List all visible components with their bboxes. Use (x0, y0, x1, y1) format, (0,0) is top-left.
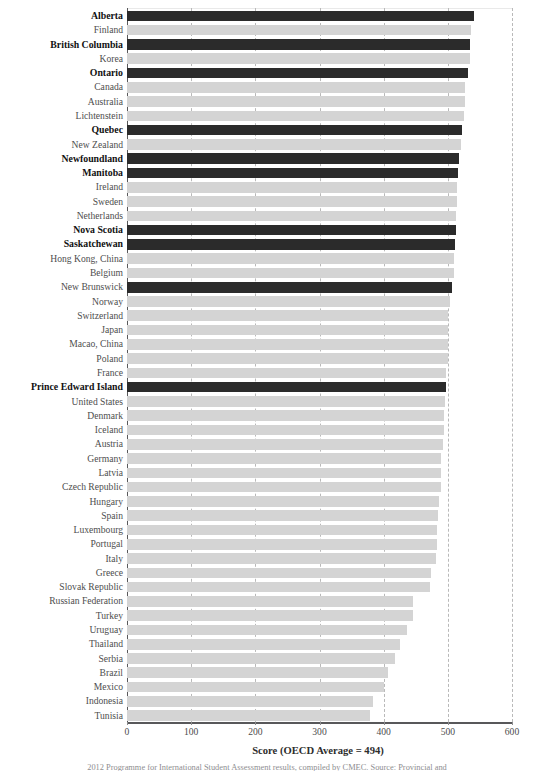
x-tick-mark (127, 722, 128, 725)
bar[interactable] (127, 353, 448, 364)
bar[interactable] (127, 11, 474, 22)
bar[interactable] (127, 139, 461, 150)
x-axis-tick-labels: 0100200300400500600 (0, 726, 534, 742)
bar[interactable] (127, 125, 462, 136)
x-tick-mark (255, 722, 256, 725)
x-tick-label: 500 (441, 726, 455, 737)
bar[interactable] (127, 268, 454, 279)
bar[interactable] (127, 682, 384, 693)
bar[interactable] (127, 68, 468, 79)
bar[interactable] (127, 425, 444, 436)
bar[interactable] (127, 339, 448, 350)
bar[interactable] (127, 667, 388, 678)
bar[interactable] (127, 211, 456, 222)
bar[interactable] (127, 710, 370, 721)
bar[interactable] (127, 39, 470, 50)
bar[interactable] (127, 653, 395, 664)
bar[interactable] (127, 296, 450, 307)
bar[interactable] (127, 639, 400, 650)
bar[interactable] (127, 310, 448, 321)
bar[interactable] (127, 25, 471, 36)
x-tick-mark (320, 722, 321, 725)
bar[interactable] (127, 82, 465, 93)
bar[interactable] (127, 539, 437, 550)
category-axis-labels: AlbertaFinlandBritish ColumbiaKoreaOntar… (0, 8, 123, 722)
category-label: Tunisia (0, 708, 123, 724)
bar[interactable] (127, 253, 454, 264)
x-tick-label: 100 (184, 726, 198, 737)
bar[interactable] (127, 468, 441, 479)
bar[interactable] (127, 196, 457, 207)
x-tick-mark (384, 722, 385, 725)
bar[interactable] (127, 453, 441, 464)
bar[interactable] (127, 382, 446, 393)
bar[interactable] (127, 53, 470, 64)
x-tick-mark (512, 722, 513, 725)
bar[interactable] (127, 225, 456, 236)
bar[interactable] (127, 496, 439, 507)
x-tick-mark (448, 722, 449, 725)
bar[interactable] (127, 111, 464, 122)
x-tick-mark (191, 722, 192, 725)
bar[interactable] (127, 96, 465, 107)
bar[interactable] (127, 410, 444, 421)
bar[interactable] (127, 582, 430, 593)
bar[interactable] (127, 482, 441, 493)
figure-footnote-text: 2012 Programme for International Student… (0, 764, 534, 771)
gridline-600 (512, 8, 514, 722)
figure-footnote: 2012 Programme for International Student… (0, 764, 534, 771)
x-axis-title-text: Score (OECD Average = 494) (252, 745, 384, 756)
bar[interactable] (127, 282, 452, 293)
bar[interactable] (127, 610, 413, 621)
plot-area (127, 8, 512, 722)
bar[interactable] (127, 553, 436, 564)
bar[interactable] (127, 625, 407, 636)
x-axis-title: Score (OECD Average = 494) (0, 745, 534, 756)
bar[interactable] (127, 396, 445, 407)
bar[interactable] (127, 153, 459, 164)
bar[interactable] (127, 525, 437, 536)
bar[interactable] (127, 568, 431, 579)
bar[interactable] (127, 696, 373, 707)
bar[interactable] (127, 439, 443, 450)
x-tick-label: 0 (125, 726, 130, 737)
bar[interactable] (127, 596, 413, 607)
x-tick-label: 400 (376, 726, 390, 737)
bar[interactable] (127, 239, 455, 250)
bar[interactable] (127, 168, 458, 179)
x-tick-label: 600 (505, 726, 519, 737)
x-tick-label: 200 (248, 726, 262, 737)
bar-chart: AlbertaFinlandBritish ColumbiaKoreaOntar… (0, 0, 534, 771)
bar[interactable] (127, 182, 457, 193)
bar[interactable] (127, 325, 448, 336)
bar[interactable] (127, 510, 438, 521)
x-tick-label: 300 (312, 726, 326, 737)
bar[interactable] (127, 368, 446, 379)
